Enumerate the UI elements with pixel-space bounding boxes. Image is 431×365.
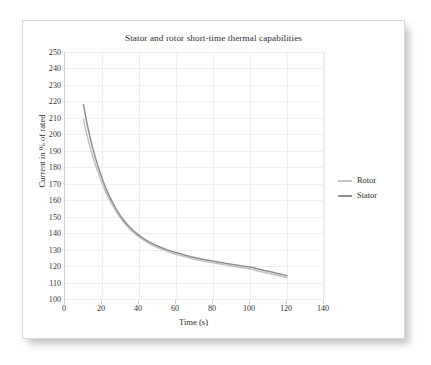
y-tick-label: 130 [49,245,61,254]
y-tick-label: 240 [49,64,61,73]
x-tick-label: 100 [243,304,255,313]
y-tick-label: 200 [49,130,61,139]
x-tick-label: 140 [317,304,329,313]
y-tick-label: 230 [49,80,61,89]
legend-label: Rotor [357,176,376,185]
chart-title: Stator and rotor short-time thermal capa… [23,33,404,43]
legend-item-rotor[interactable]: Rotor [338,173,404,188]
figure-card: Stator and rotor short-time thermal capa… [22,20,405,339]
figure-root: Stator and rotor short-time thermal capa… [0,0,431,365]
series-line-stator [84,105,288,276]
y-axis-title: Current in % of rated [37,81,47,221]
legend-swatch-icon [338,180,352,182]
y-tick-label: 190 [49,146,61,155]
x-tick-label: 40 [134,304,142,313]
y-tick-label: 170 [49,179,61,188]
x-axis-title: Time (s) [64,317,323,327]
legend-item-stator[interactable]: Stator [338,188,404,203]
plot-area [64,52,324,300]
y-tick-label: 220 [49,97,61,106]
y-tick-label: 140 [49,229,61,238]
y-tick-label: 100 [49,295,61,304]
legend: RotorStator [338,173,404,203]
y-tick-label: 180 [49,163,61,172]
series-curves [65,52,324,299]
x-tick-label: 20 [97,304,105,313]
y-tick-label: 250 [49,48,61,57]
legend-swatch-icon [338,195,352,197]
y-tick-label: 210 [49,113,61,122]
y-tick-label: 150 [49,212,61,221]
y-tick-label: 160 [49,196,61,205]
y-tick-label: 120 [49,262,61,271]
gridline-vertical [324,52,325,299]
series-line-rotor [84,120,288,278]
x-tick-label: 0 [62,304,66,313]
x-tick-label: 60 [171,304,179,313]
legend-label: Stator [357,191,377,200]
x-tick-label: 80 [208,304,216,313]
x-tick-label: 120 [280,304,292,313]
plot-inner [65,52,324,299]
y-tick-label: 110 [49,278,61,287]
x-axis-tick-labels: 020406080100120140 [64,304,323,318]
